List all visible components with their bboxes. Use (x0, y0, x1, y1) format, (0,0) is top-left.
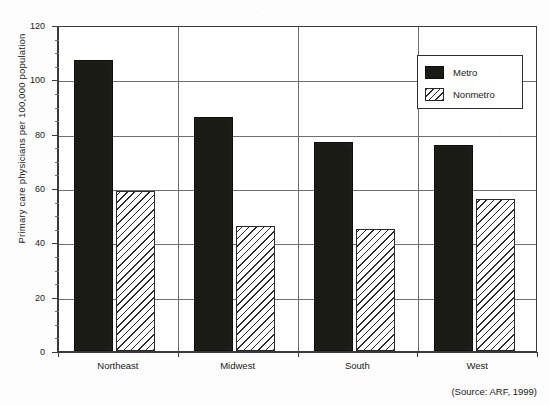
y-tick-major (52, 135, 59, 136)
y-tick-minor (55, 40, 59, 41)
legend-label-nonmetro: Nonmetro (453, 89, 495, 100)
y-tick-major (52, 189, 59, 190)
y-tick-minor (55, 108, 59, 109)
y-tick-major (52, 80, 59, 81)
y-tick-minor (55, 121, 59, 122)
x-category-label-west: West (417, 360, 537, 371)
bar-west-nonmetro (476, 199, 515, 351)
y-tick-major (52, 26, 59, 27)
bar-south-nonmetro (356, 229, 395, 351)
x-tick (417, 352, 418, 357)
bar-midwest-metro (194, 117, 233, 351)
source-note: (Source: ARF, 1999) (451, 386, 537, 397)
y-tick-minor (55, 94, 59, 95)
y-tick-label: 60 (15, 185, 45, 194)
y-tick-label: 40 (15, 239, 45, 248)
y-tick-minor (55, 67, 59, 68)
y-tick-minor (55, 216, 59, 217)
y-tick-minor (55, 175, 59, 176)
plot-area: Metro Nonmetro (58, 26, 537, 352)
x-tick (58, 352, 59, 357)
category-separator (298, 27, 299, 351)
y-tick-label: 100 (15, 76, 45, 85)
x-category-label-south: South (298, 360, 418, 371)
diagonal-hatch-swatch (425, 88, 444, 101)
bar-northeast-nonmetro (116, 191, 155, 351)
y-tick-minor (55, 338, 59, 339)
bar-south-metro (314, 142, 353, 351)
legend-label-metro: Metro (453, 67, 477, 78)
x-tick (298, 352, 299, 357)
y-tick-major (52, 298, 59, 299)
x-category-label-northeast: Northeast (58, 360, 178, 371)
category-separator (178, 27, 179, 351)
bar-midwest-nonmetro (236, 226, 275, 351)
x-category-label-midwest: Midwest (178, 360, 298, 371)
x-tick (178, 352, 179, 357)
y-tick-minor (55, 162, 59, 163)
bar-west-metro (434, 145, 473, 351)
y-tick-minor (55, 311, 59, 312)
y-tick-minor (55, 53, 59, 54)
y-tick-minor (55, 325, 59, 326)
y-tick-label: 120 (15, 22, 45, 31)
y-tick-minor (55, 257, 59, 258)
legend-item-nonmetro: Nonmetro (418, 83, 522, 105)
legend-item-metro: Metro (418, 61, 522, 83)
solid-black-swatch (425, 66, 444, 79)
y-tick-label: 0 (15, 348, 45, 357)
y-tick-major (52, 243, 59, 244)
y-tick-minor (55, 284, 59, 285)
y-tick-minor (55, 271, 59, 272)
chart-legend: Metro Nonmetro (417, 55, 523, 109)
y-tick-label: 20 (15, 294, 45, 303)
y-tick-minor (55, 230, 59, 231)
bar-northeast-metro (74, 60, 113, 351)
x-tick (537, 352, 538, 357)
y-tick-label: 80 (15, 131, 45, 140)
chart-canvas: Primary care physicians per 100,000 popu… (0, 0, 549, 405)
y-tick-minor (55, 148, 59, 149)
y-tick-minor (55, 203, 59, 204)
